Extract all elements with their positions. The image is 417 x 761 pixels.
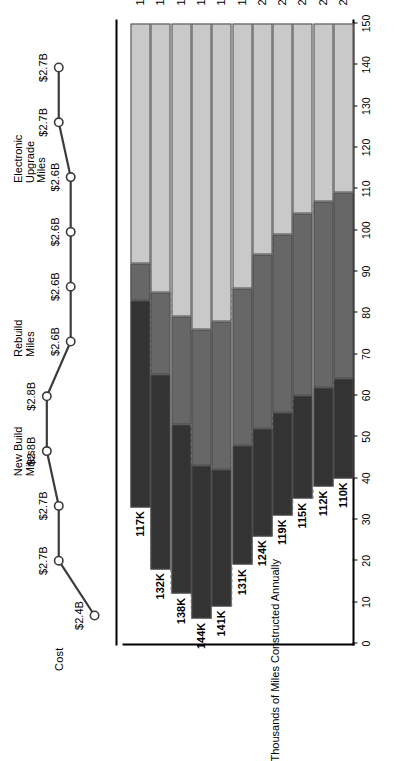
bar-segment-rebuild-miles <box>333 192 353 378</box>
bar-row <box>211 0 231 707</box>
bar-row <box>232 0 252 707</box>
bar-segment-new-build-miles <box>171 424 191 593</box>
bar-row <box>272 0 292 707</box>
bar-segment-rebuild-miles <box>232 288 252 445</box>
bar-segment-electronic-upgrade-miles <box>333 23 353 192</box>
axis-tick-label: 130 <box>359 97 371 115</box>
cost-point-label: $2.6B <box>48 217 60 246</box>
cost-point-label: $2.7B <box>36 491 48 520</box>
bar-total-label: 144K <box>194 622 206 648</box>
bar-segment-new-build-miles <box>130 300 150 507</box>
category-label: 1998 <box>214 0 226 5</box>
axis-tick-label: 150 <box>359 14 371 32</box>
category-label: 2002(e) <box>295 0 307 5</box>
legend-label-line: Miles <box>24 426 36 476</box>
category-label: 1995 <box>153 0 165 5</box>
axis-tick-label: 30 <box>359 513 371 525</box>
axis-tick-label: 110 <box>359 180 371 197</box>
bar-segment-new-build-miles <box>292 395 312 498</box>
legend-label-line: Rebuild <box>12 319 24 356</box>
bar-segment-electronic-upgrade-miles <box>211 23 231 321</box>
bar-segment-electronic-upgrade-miles <box>191 23 211 329</box>
bar-total-label: 110K <box>336 482 348 508</box>
bar-total-label: 117K <box>133 511 145 537</box>
bar-total-label: 131K <box>235 568 247 594</box>
bar-segment-electronic-upgrade-miles <box>171 23 191 316</box>
bar-row <box>252 0 272 707</box>
axis-tick-label: 60 <box>359 389 371 401</box>
bar-row <box>191 0 211 707</box>
bar-segment-rebuild-miles <box>313 201 333 387</box>
bar-segment-electronic-upgrade-miles <box>130 23 150 263</box>
bar-segment-rebuild-miles <box>272 234 292 412</box>
bar-row <box>333 0 353 707</box>
bar-row <box>150 0 170 707</box>
axis-tick-label: 0 <box>359 640 371 646</box>
bar-segment-new-build-miles <box>313 387 333 486</box>
bar-segment-new-build-miles <box>211 469 231 605</box>
bar-segment-new-build-miles <box>272 412 292 515</box>
bar-row <box>130 0 150 707</box>
bar-segment-electronic-upgrade-miles <box>252 23 272 254</box>
bar-segment-rebuild-miles <box>211 321 231 470</box>
legend-label-line: Miles <box>24 319 36 356</box>
category-label: 1996 <box>174 0 186 5</box>
bar-total-label: 119K <box>275 519 287 545</box>
cost-point-label: $2.7B <box>36 107 48 136</box>
category-label: 2003(e) <box>316 0 328 5</box>
category-label: 1994 <box>133 0 145 5</box>
axis-tick-label: 120 <box>359 138 371 156</box>
bar-segment-electronic-upgrade-miles <box>150 23 170 292</box>
bar-segment-rebuild-miles <box>171 316 191 423</box>
legend-label-line: Miles <box>35 134 47 182</box>
cost-point-label: $2.7B <box>36 546 48 575</box>
category-label: 1999(e) <box>235 0 247 5</box>
bar-segment-electronic-upgrade-miles <box>272 23 292 234</box>
legend-label-line: Electronic <box>12 134 24 182</box>
category-label: 2000(e) <box>255 0 267 5</box>
bar-total-label: 112K <box>316 490 328 516</box>
bar-segment-electronic-upgrade-miles <box>232 23 252 288</box>
bars-panel: Thousands of Miles Constructed Annually … <box>118 0 417 707</box>
legend-label-line: New Build <box>12 426 24 476</box>
cost-point-label: $2.6B <box>48 327 60 356</box>
bar-segment-electronic-upgrade-miles <box>292 23 312 213</box>
bar-segment-new-build-miles <box>252 428 272 535</box>
axis-tick-label: 70 <box>359 348 371 360</box>
bar-segment-rebuild-miles <box>191 329 211 465</box>
bar-segment-new-build-miles <box>232 445 252 565</box>
axis-tick-label: 90 <box>359 265 371 277</box>
bar-segment-rebuild-miles <box>150 292 170 375</box>
bar-total-label: 138K <box>174 597 186 623</box>
legend-item-rebuild: RebuildMiles <box>12 319 35 356</box>
axis-tick-label: 140 <box>359 56 371 74</box>
bar-segment-new-build-miles <box>333 378 353 477</box>
bar-segment-new-build-miles <box>150 374 170 568</box>
axis-tick-label: 100 <box>359 221 371 239</box>
legend-item-new_build: New BuildMiles <box>12 426 35 476</box>
bar-segment-electronic-upgrade-miles <box>313 23 333 201</box>
axis-tick-label: 50 <box>359 431 371 443</box>
cost-point-label: $2.6B <box>48 162 60 191</box>
category-label: 1997 <box>194 0 206 5</box>
bar-total-label: 141K <box>214 610 226 636</box>
bar-total-label: 124K <box>255 540 267 566</box>
axis-tick-label: 10 <box>359 596 371 608</box>
bar-total-label: 115K <box>295 502 307 528</box>
legend-label-line: Upgrade <box>24 134 36 182</box>
axis-tick-label: 20 <box>359 555 371 567</box>
cost-point-label: $2.8B <box>24 381 36 410</box>
cost-point-label: $2.7B <box>36 53 48 82</box>
bar-segment-new-build-miles <box>191 465 211 618</box>
cost-point-label: $2.6B <box>48 272 60 301</box>
bar-segment-rebuild-miles <box>252 254 272 428</box>
axis-tick-label: 80 <box>359 307 371 319</box>
bar-segment-rebuild-miles <box>292 213 312 395</box>
bar-row <box>313 0 333 707</box>
bar-total-label: 132K <box>153 573 165 599</box>
cost-point-label: $2.4B <box>72 601 84 630</box>
legend-item-electronic: ElectronicUpgradeMiles <box>12 134 47 182</box>
bar-segment-rebuild-miles <box>130 263 150 300</box>
